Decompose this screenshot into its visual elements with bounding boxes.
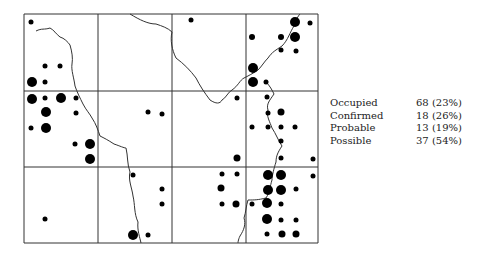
record-dot bbox=[43, 96, 48, 101]
river-line bbox=[130, 14, 300, 103]
record-dot bbox=[27, 94, 37, 104]
map-grid bbox=[24, 14, 318, 243]
record-dot bbox=[56, 93, 66, 103]
record-dot bbox=[27, 77, 37, 87]
legend-row-confirmed: Confirmed 18 (26%) bbox=[330, 110, 462, 123]
river-line bbox=[238, 82, 282, 243]
record-dot bbox=[43, 64, 48, 69]
record-dot bbox=[279, 231, 286, 238]
record-dot bbox=[265, 95, 270, 100]
record-dot bbox=[160, 187, 165, 192]
record-dot bbox=[41, 123, 51, 133]
record-dot bbox=[248, 77, 258, 87]
record-dot bbox=[278, 34, 284, 40]
record-dot bbox=[262, 198, 272, 208]
record-dot bbox=[308, 21, 313, 26]
record-dot bbox=[250, 202, 255, 207]
legend-value: 37 (54%) bbox=[416, 135, 462, 148]
record-dot bbox=[146, 110, 151, 115]
record-dot bbox=[160, 202, 165, 207]
record-dot bbox=[74, 111, 79, 116]
record-dot bbox=[58, 64, 63, 69]
record-dot bbox=[311, 157, 316, 162]
record-dot bbox=[263, 170, 273, 180]
record-dot bbox=[29, 126, 34, 131]
record-dot bbox=[279, 202, 284, 207]
legend-label: Confirmed bbox=[330, 110, 416, 123]
legend-row-probable: Probable 13 (19%) bbox=[330, 122, 462, 135]
record-dot bbox=[220, 202, 225, 207]
record-dot bbox=[294, 187, 299, 192]
record-dot bbox=[266, 111, 271, 116]
record-dot bbox=[294, 218, 299, 223]
record-dot bbox=[73, 142, 78, 147]
record-dot bbox=[234, 155, 241, 162]
legend-row-possible: Possible 37 (54%) bbox=[330, 135, 462, 148]
record-dot bbox=[160, 112, 165, 117]
record-dot bbox=[266, 125, 271, 130]
record-dot bbox=[131, 173, 136, 178]
record-dot bbox=[263, 185, 273, 195]
record-dot bbox=[265, 232, 270, 237]
record-dot bbox=[29, 20, 34, 25]
record-dot bbox=[290, 17, 300, 27]
record-dot bbox=[279, 48, 284, 53]
record-dot bbox=[276, 170, 286, 180]
record-dot bbox=[311, 174, 316, 179]
record-dot bbox=[189, 18, 194, 23]
river-line bbox=[36, 28, 141, 243]
record-dot bbox=[279, 218, 284, 223]
record-dot bbox=[128, 230, 138, 240]
river-lines bbox=[36, 14, 300, 243]
record-dot bbox=[279, 139, 284, 144]
record-dot bbox=[220, 172, 225, 177]
record-dot bbox=[278, 109, 285, 116]
record-dot bbox=[218, 185, 225, 192]
record-dot bbox=[290, 32, 300, 42]
record-dot bbox=[146, 233, 151, 238]
record-dot bbox=[250, 125, 255, 130]
record-dot bbox=[74, 96, 79, 101]
record-dot bbox=[41, 107, 51, 117]
legend-value: 68 (23%) bbox=[416, 97, 462, 110]
legend: Occupied 68 (23%) Confirmed 18 (26%) Pro… bbox=[330, 97, 462, 147]
record-dot bbox=[249, 34, 255, 40]
record-dot bbox=[248, 63, 258, 73]
record-dot bbox=[276, 185, 286, 195]
record-dot bbox=[235, 96, 240, 101]
legend-label: Occupied bbox=[330, 97, 416, 110]
record-dot bbox=[279, 156, 284, 161]
record-dot bbox=[293, 231, 300, 238]
record-dot bbox=[43, 217, 48, 222]
legend-value: 13 (19%) bbox=[416, 122, 462, 135]
legend-row-occupied: Occupied 68 (23%) bbox=[330, 97, 462, 110]
record-dot bbox=[233, 201, 240, 208]
record-dot bbox=[293, 125, 298, 130]
distribution-map bbox=[0, 0, 330, 254]
record-dot bbox=[85, 139, 95, 149]
record-dot bbox=[235, 172, 240, 177]
record-dot bbox=[43, 80, 48, 85]
record-dot bbox=[294, 49, 299, 54]
legend-label: Probable bbox=[330, 122, 416, 135]
legend-value: 18 (26%) bbox=[416, 110, 462, 123]
record-dot bbox=[262, 214, 272, 224]
record-dot bbox=[85, 154, 95, 164]
record-dot bbox=[264, 80, 269, 85]
legend-label: Possible bbox=[330, 135, 416, 148]
record-dot bbox=[279, 125, 284, 130]
